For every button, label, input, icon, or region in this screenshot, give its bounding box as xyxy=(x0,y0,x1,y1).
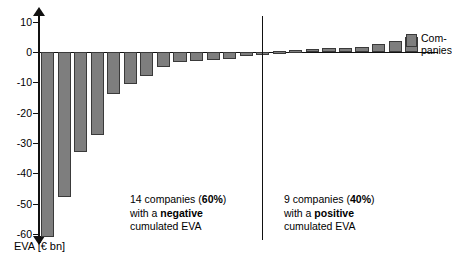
bar xyxy=(41,52,54,237)
annotation-positive-group: 9 companies (40%)with a positivecumulate… xyxy=(284,193,374,234)
legend-swatch-companies xyxy=(406,34,417,47)
bar xyxy=(322,48,335,52)
annotation-line: with a positive xyxy=(284,207,374,221)
annotation-line: cumulated EVA xyxy=(130,220,226,234)
annotation-line: 14 companies (60%) xyxy=(130,193,226,207)
bar xyxy=(173,52,186,62)
annotation-line: with a negative xyxy=(130,207,226,221)
y-tick-label: -50 xyxy=(0,199,32,209)
annotation-emphasis: negative xyxy=(160,207,203,219)
legend-label-companies: Com- panies xyxy=(421,33,452,56)
annotation-emphasis: 60% xyxy=(202,193,223,205)
bar xyxy=(58,52,71,197)
bar xyxy=(91,52,104,135)
y-tick-label: 10 xyxy=(0,17,32,27)
y-tick-label: -10 xyxy=(0,77,32,87)
y-tick-label: -20 xyxy=(0,108,32,118)
bar xyxy=(339,48,352,52)
bar xyxy=(306,49,319,52)
y-tick-label: -40 xyxy=(0,168,32,178)
annotation-line: cumulated EVA xyxy=(284,220,374,234)
annotation-text: 14 companies ( xyxy=(130,193,202,205)
y-tick-label: -60 xyxy=(0,229,32,239)
annotation-emphasis: 40% xyxy=(350,193,371,205)
legend: Com- panies xyxy=(406,33,452,56)
bar xyxy=(74,52,87,152)
bar xyxy=(240,52,253,56)
bar xyxy=(140,52,153,76)
bar xyxy=(124,52,137,84)
bar xyxy=(289,50,302,53)
bar xyxy=(207,52,220,60)
annotation-text: 9 companies ( xyxy=(284,193,350,205)
bar xyxy=(157,52,170,67)
annotation-text: cumulated EVA xyxy=(284,220,356,232)
annotation-line: 9 companies (40%) xyxy=(284,193,374,207)
bar xyxy=(355,47,368,52)
bar xyxy=(389,41,402,52)
bar xyxy=(190,52,203,61)
annotation-negative-group: 14 companies (60%)with a negativecumulat… xyxy=(130,193,226,234)
annotation-text: with a xyxy=(130,207,160,219)
y-tick-label: 0 xyxy=(0,47,32,57)
y-tick-label: -30 xyxy=(0,138,32,148)
annotation-text: ) xyxy=(371,193,375,205)
annotation-text: cumulated EVA xyxy=(130,220,202,232)
bar xyxy=(107,52,120,94)
annotation-text: with a xyxy=(284,207,314,219)
annotation-emphasis: positive xyxy=(314,207,354,219)
bar xyxy=(273,51,286,54)
y-axis-title: EVA [€ bn] xyxy=(14,240,65,253)
group-divider-line xyxy=(262,16,263,240)
bar xyxy=(372,44,385,52)
eva-waterfall-chart: 100-10-20-30-40-50-60 Com- panies EVA [€… xyxy=(0,0,452,259)
annotation-text: ) xyxy=(223,193,227,205)
plot-area xyxy=(38,0,438,259)
bar xyxy=(223,52,236,59)
